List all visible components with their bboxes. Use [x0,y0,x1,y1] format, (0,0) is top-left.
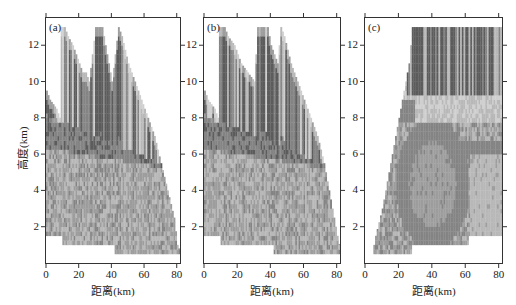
panel-c: (c) 距离(km) 24681012 020406080 [0,0,516,305]
axis-ticks-c [0,0,516,305]
